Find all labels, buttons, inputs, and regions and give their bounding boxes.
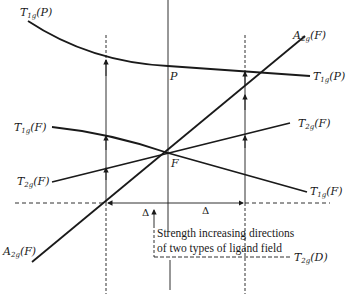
point-p-label: P (169, 70, 178, 83)
point-f-label: F (170, 157, 179, 170)
label-t2g-f-right: T2g(F) (298, 117, 331, 131)
label-t2g-f-left: T2g(F) (17, 175, 50, 189)
caption-line-1: Strength increasing directions (157, 227, 295, 240)
label-a2g-f-bottom: A2g(F) (2, 245, 36, 259)
label-t1g-p-right: T1g(P) (313, 70, 345, 84)
delta-right-label: Δ (202, 205, 209, 216)
caption-line-2: of two types of ligand field (157, 242, 282, 255)
label-t1g-f-left: T1g(F) (14, 121, 47, 135)
state-curves (28, 21, 310, 262)
label-t1g-f-right: T1g(F) (310, 185, 343, 199)
label-t1g-p-left: T1g(P) (20, 6, 52, 20)
term-diagram: T1g(P) T1g(P) A2g(F) A2g(F) T1g(F) T1g(F… (0, 0, 349, 294)
label-a2g-f-top: A2g(F) (292, 29, 326, 43)
delta-left-label: Δ (142, 207, 149, 218)
line-t1g-f (52, 127, 307, 192)
label-t2g-d: T2g(D) (294, 251, 328, 265)
